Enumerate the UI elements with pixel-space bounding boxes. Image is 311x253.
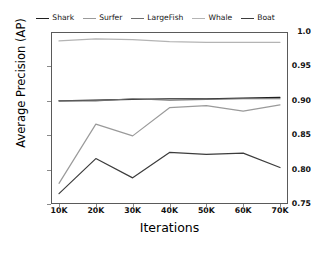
legend-label: Boat — [257, 14, 275, 22]
x-axis-tick-mark — [133, 204, 134, 208]
legend-label: Shark — [52, 14, 74, 22]
legend-item-whale[interactable]: Whale — [192, 14, 232, 22]
legend-item-shark[interactable]: Shark — [36, 14, 74, 22]
chart-container: SharkSurferLargeFishWhaleBoat 1.00.950.9… — [0, 0, 311, 253]
legend-item-boat[interactable]: Boat — [241, 14, 275, 22]
x-axis-tick-mark — [243, 204, 244, 208]
series-line-surfer — [59, 105, 280, 183]
y-axis-tick-mark — [47, 204, 51, 205]
x-axis-tick-mark — [59, 204, 60, 208]
x-axis-tick-mark — [96, 204, 97, 208]
legend-item-largefish[interactable]: LargeFish — [131, 14, 183, 22]
legend-item-surfer[interactable]: Surfer — [83, 14, 122, 22]
y-axis-title: Average Precision (AP) — [14, 8, 28, 158]
legend-label: Whale — [208, 14, 232, 22]
legend-swatch-icon — [83, 18, 96, 19]
legend-label: Surfer — [99, 14, 122, 22]
series-line-boat — [59, 152, 280, 193]
x-axis-tick-mark — [280, 204, 281, 208]
x-axis-tick-mark — [170, 204, 171, 208]
chart-legend: SharkSurferLargeFishWhaleBoat — [0, 10, 311, 26]
legend-label: LargeFish — [147, 14, 183, 22]
plot-lines — [51, 32, 288, 204]
legend-swatch-icon — [192, 18, 205, 19]
legend-swatch-icon — [36, 18, 49, 19]
legend-swatch-icon — [241, 18, 254, 19]
series-line-whale — [59, 39, 280, 42]
x-axis-tick-mark — [206, 204, 207, 208]
x-axis-title: Iterations — [51, 220, 288, 235]
legend-swatch-icon — [131, 18, 144, 19]
